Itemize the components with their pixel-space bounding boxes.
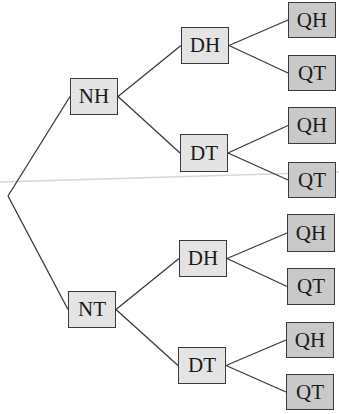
tree-node-qt: QT bbox=[288, 162, 336, 198]
tree-edge bbox=[8, 196, 68, 310]
tree-node-qt: QT bbox=[288, 55, 336, 91]
tree-edge bbox=[226, 340, 286, 366]
tree-node-qh: QH bbox=[288, 2, 336, 38]
tree-edge bbox=[229, 46, 288, 74]
tree-node-qt: QT bbox=[287, 268, 335, 305]
tree-edge bbox=[228, 153, 288, 180]
tree-node-dh: DH bbox=[179, 240, 227, 277]
tree-node-nh: NH bbox=[70, 78, 118, 115]
tree-edge bbox=[118, 97, 180, 154]
edge-layer bbox=[8, 20, 288, 392]
tree-node-dt: DT bbox=[180, 134, 228, 172]
tree-edge bbox=[228, 126, 288, 154]
tree-node-dt: DT bbox=[178, 347, 226, 384]
tree-node-qt: QT bbox=[286, 374, 334, 410]
tree-edge bbox=[226, 366, 286, 393]
tree-edge bbox=[118, 46, 181, 97]
tree-edge bbox=[116, 310, 178, 366]
tree-node-qh: QH bbox=[287, 214, 335, 252]
tree-node-dh: DH bbox=[181, 27, 229, 64]
tree-node-qh: QH bbox=[288, 107, 336, 144]
tree-edge bbox=[229, 20, 288, 46]
tree-node-qh: QH bbox=[286, 322, 334, 358]
tree-edge bbox=[116, 259, 179, 310]
tree-node-nt: NT bbox=[68, 291, 116, 328]
tree-edge bbox=[227, 233, 287, 259]
tree-edge bbox=[227, 259, 287, 287]
